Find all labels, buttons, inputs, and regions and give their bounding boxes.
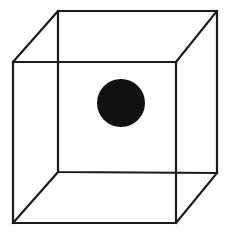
figure-canvas: [0, 0, 231, 239]
front-face-outline: [13, 62, 176, 223]
connector-bottom-right-edge: [176, 173, 217, 223]
center-sphere: [97, 79, 145, 127]
connector-top-right-edge: [176, 11, 217, 62]
cube-diagram-svg: [0, 0, 231, 239]
connector-bottom-left-edge: [13, 172, 58, 223]
connector-top-left-edge: [13, 11, 58, 62]
